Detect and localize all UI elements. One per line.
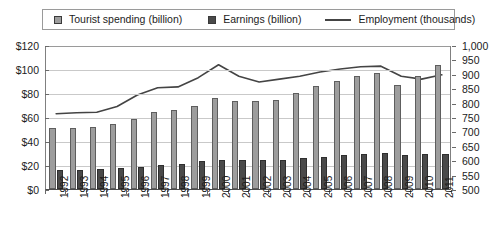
right-axis-tick-label: 700	[462, 127, 480, 138]
x-axis-label-1992: 1992	[60, 176, 70, 198]
bar-tourist-spending	[435, 65, 441, 189]
legend-item-employment: Employment (thousands)	[325, 10, 475, 29]
right-axis-tick	[452, 89, 456, 90]
right-axis-tick	[452, 75, 456, 76]
bar-tourist-spending	[70, 128, 76, 189]
left-axis-tick-label: $80	[3, 89, 39, 100]
left-axis: $0$20$40$60$80$100$120	[0, 0, 39, 240]
bar-tourist-spending	[313, 86, 319, 189]
x-axis-label-1995: 1995	[121, 176, 131, 198]
right-axis-tick	[452, 60, 456, 61]
x-axis-label-2007: 2007	[364, 176, 374, 198]
x-axis-label-2002: 2002	[263, 176, 273, 198]
legend-swatch-icon-earnings	[208, 16, 216, 24]
x-axis-label-1997: 1997	[161, 176, 171, 198]
left-axis-tick-label: $0	[3, 185, 39, 196]
right-axis-tick-label: 1,000	[462, 41, 488, 52]
right-axis: 5005506006507007508008509009501,000	[458, 0, 501, 240]
x-axis-label-2010: 2010	[425, 176, 435, 198]
x-axis-label-2003: 2003	[283, 176, 293, 198]
bar-tourist-spending	[49, 128, 55, 189]
right-axis-tick-label: 750	[462, 113, 480, 124]
bar-tourist-spending	[354, 76, 360, 189]
legend-line-icon-employment	[325, 19, 351, 21]
left-axis-tick	[45, 166, 49, 167]
legend-item-tourist-spending: Tourist spending (billion)	[54, 10, 182, 29]
x-axis-label-2011: 2011	[445, 176, 455, 198]
left-axis-tick	[45, 118, 49, 119]
right-axis-tick-label: 850	[462, 84, 480, 95]
x-axis-label-2008: 2008	[384, 176, 394, 198]
left-axis-tick	[45, 70, 49, 71]
left-axis-tick-label: $100	[3, 65, 39, 76]
bar-tourist-spending	[273, 100, 279, 189]
left-axis-tick	[45, 142, 49, 143]
right-axis-tick-label: 550	[462, 171, 480, 182]
bar-tourist-spending	[90, 127, 96, 189]
right-axis-tick	[452, 118, 456, 119]
x-axis-label-2005: 2005	[324, 176, 334, 198]
bar-tourist-spending	[232, 101, 238, 189]
gridline	[46, 166, 450, 167]
right-axis-tick	[452, 190, 456, 191]
bar-tourist-spending	[191, 106, 197, 189]
bar-tourist-spending	[293, 93, 299, 189]
left-axis-tick	[45, 46, 49, 47]
bar-tourist-spending	[252, 101, 258, 189]
x-axis-label-1996: 1996	[141, 176, 151, 198]
right-axis-tick	[452, 104, 456, 105]
gridline	[46, 142, 450, 143]
right-axis-tick	[452, 46, 456, 47]
x-axis-label-2004: 2004	[303, 176, 313, 198]
employment-line-path	[56, 65, 442, 114]
bar-tourist-spending	[110, 124, 116, 189]
legend-swatch-icon-tourist-spending	[54, 16, 62, 24]
left-axis-tick-label: $20	[3, 161, 39, 172]
x-axis-label-1993: 1993	[80, 176, 90, 198]
x-axis-labels: 1992199319941995199619971998199920002001…	[45, 190, 451, 238]
x-axis-label-2006: 2006	[344, 176, 354, 198]
right-axis-tick-label: 950	[462, 55, 480, 66]
bar-tourist-spending	[131, 119, 137, 189]
left-axis-tick	[45, 190, 49, 191]
right-axis-tick-label: 650	[462, 142, 480, 153]
left-axis-tick-label: $120	[3, 41, 39, 52]
gridline	[46, 94, 450, 95]
legend-item-earnings: Earnings (billion)	[208, 10, 301, 29]
right-axis-tick-label: 900	[462, 70, 480, 81]
legend-label-tourist-spending: Tourist spending (billion)	[69, 14, 182, 25]
left-axis-tick-label: $40	[3, 137, 39, 148]
bar-tourist-spending	[212, 98, 218, 189]
gridline	[46, 70, 450, 71]
gridline	[46, 46, 450, 47]
x-axis-label-1998: 1998	[181, 176, 191, 198]
right-axis-tick	[452, 161, 456, 162]
plot-area	[45, 46, 451, 190]
left-axis-tick	[45, 94, 49, 95]
right-axis-tick-label: 600	[462, 156, 480, 167]
bar-tourist-spending	[334, 81, 340, 189]
left-axis-tick-label: $60	[3, 113, 39, 124]
x-axis-label-2001: 2001	[242, 176, 252, 198]
x-axis-label-1999: 1999	[202, 176, 212, 198]
right-axis-tick-label: 800	[462, 99, 480, 110]
gridline	[46, 118, 450, 119]
bar-tourist-spending	[394, 85, 400, 189]
right-axis-tick	[452, 132, 456, 133]
bar-tourist-spending	[151, 112, 157, 189]
x-axis-label-1994: 1994	[100, 176, 110, 198]
chart-legend: Tourist spending (billion) Earnings (bil…	[42, 9, 455, 30]
right-axis-tick-label: 500	[462, 185, 480, 196]
right-axis-tick	[452, 147, 456, 148]
x-axis-label-2009: 2009	[405, 176, 415, 198]
x-axis-label-2000: 2000	[222, 176, 232, 198]
legend-label-earnings: Earnings (billion)	[223, 14, 301, 25]
bar-tourist-spending	[374, 73, 380, 189]
chart-container: Tourist spending (billion) Earnings (bil…	[0, 0, 501, 240]
bar-tourist-spending	[171, 110, 177, 189]
bar-tourist-spending	[415, 76, 421, 189]
right-axis-tick	[452, 176, 456, 177]
